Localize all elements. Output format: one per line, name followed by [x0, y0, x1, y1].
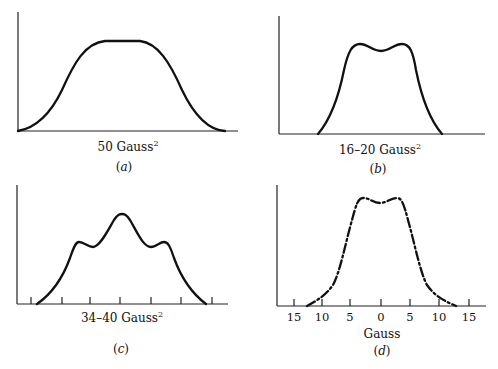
- panel-d-tick-label: 15: [462, 310, 477, 324]
- panel-c-ticks: [31, 297, 212, 304]
- panel-a-xlabel-text: 50 Gauss: [98, 140, 154, 154]
- panel-b-xlabel-sup: 2: [416, 142, 421, 151]
- panel-d-tick-label: 10: [432, 310, 447, 324]
- panel-d-curve: [307, 198, 456, 306]
- panel-d-tick-label: 5: [406, 310, 413, 324]
- panel-d-tick-label: 0: [377, 310, 384, 324]
- panel-b-caption: (b): [369, 162, 386, 176]
- panel-d-tick-label: 15: [287, 310, 302, 324]
- panel-c-curve: [37, 214, 206, 304]
- panel-d-tick-label: 10: [315, 310, 330, 324]
- panel-a-xlabel: 50 Gauss2: [98, 139, 159, 154]
- panel-a-xlabel-sup: 2: [153, 139, 158, 148]
- panel-c-xlabel-sup: 2: [158, 310, 163, 319]
- panel-b-xlabel: 16–20 Gauss2: [339, 142, 421, 157]
- panel-c-xlabel: 34–40 Gauss2: [81, 310, 163, 325]
- panel-a-caption: (a): [116, 160, 133, 174]
- figure-canvas: [0, 0, 498, 369]
- panel-b-xlabel-text: 16–20 Gauss: [339, 143, 416, 157]
- panel-b-caption-letter: b: [374, 162, 382, 176]
- panel-c-caption-letter: c: [118, 342, 125, 356]
- panel-d-xlabel: Gauss: [364, 327, 401, 341]
- panel-d-tick-label: 5: [346, 310, 353, 324]
- panel-d-caption: (d): [373, 344, 390, 358]
- panel-a-curve: [18, 41, 225, 131]
- panel-c-xlabel-text: 34–40 Gauss: [81, 311, 158, 325]
- panel-d-caption-letter: d: [378, 344, 386, 358]
- panel-b-curve: [318, 44, 442, 134]
- panel-a-caption-letter: a: [120, 160, 127, 174]
- panel-c-caption: (c): [113, 342, 129, 356]
